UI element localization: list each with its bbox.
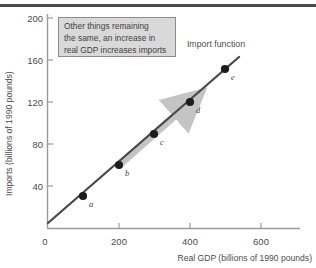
data-point-a[interactable] <box>79 192 87 200</box>
x-tick-label-0: 0 <box>42 236 47 247</box>
y-axis-title: Imports (billions of 1990 pounds) <box>4 71 14 196</box>
annotation-line-2: the same, an increase in <box>64 33 156 43</box>
import-function-label: Import function <box>187 39 245 49</box>
data-point-label-c: c <box>160 138 164 147</box>
import-function-line <box>48 57 239 223</box>
x-axis-ticks <box>119 223 261 229</box>
x-tick-label-200: 200 <box>111 236 127 247</box>
y-axis-ticks <box>48 18 54 186</box>
y-tick-label-120: 120 <box>27 97 43 108</box>
y-tick-label-80: 80 <box>32 139 43 150</box>
y-tick-label-40: 40 <box>32 181 43 192</box>
data-point-label-d: d <box>196 106 201 115</box>
data-point-e[interactable] <box>221 65 229 73</box>
x-tick-label-400: 400 <box>182 236 198 247</box>
data-point-label-e: e <box>231 73 235 82</box>
data-point-d[interactable] <box>186 98 194 106</box>
chart-canvas: 200 160 120 80 40 0 200 400 600 Real GDP… <box>0 0 316 268</box>
data-point-labels: a b c d e <box>89 73 235 209</box>
data-point-label-a: a <box>89 200 93 209</box>
import-function-figure: 200 160 120 80 40 0 200 400 600 Real GDP… <box>0 0 316 268</box>
data-point-label-b: b <box>125 169 129 178</box>
data-point-b[interactable] <box>115 161 123 169</box>
data-point-c[interactable] <box>150 130 158 138</box>
y-tick-label-160: 160 <box>27 55 43 66</box>
annotation-box: Other things remaining the same, an incr… <box>59 18 176 57</box>
annotation-line-3: real GDP increases imports <box>64 45 166 55</box>
annotation-line-1: Other things remaining <box>64 21 149 31</box>
x-tick-label-600: 600 <box>253 236 269 247</box>
x-axis-tick-labels: 0 200 400 600 <box>42 236 269 247</box>
x-axis-title: Real GDP (billions of 1990 pounds) <box>177 253 312 263</box>
y-tick-label-200: 200 <box>27 13 43 24</box>
y-axis-tick-labels: 200 160 120 80 40 <box>27 13 43 192</box>
